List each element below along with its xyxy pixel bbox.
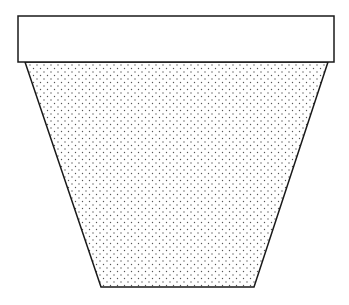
pot-rim <box>18 16 334 62</box>
pot-body <box>25 62 328 287</box>
flower-pot-diagram <box>0 0 349 305</box>
